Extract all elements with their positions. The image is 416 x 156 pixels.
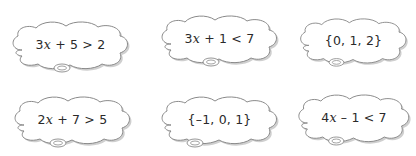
- set-label: {0, 1, 2}: [296, 33, 411, 48]
- inequality-label: 3x + 5 > 2: [8, 37, 133, 52]
- thought-cloud-5: {–1, 0, 1}: [157, 95, 282, 150]
- inequality-label: 3x + 1 < 7: [157, 31, 282, 46]
- thought-cloud-6: 4x – 1 < 7: [294, 93, 414, 148]
- thought-cloud-2: 3x + 1 < 7: [157, 14, 282, 69]
- thought-cloud-1: 3x + 5 > 2: [8, 20, 133, 75]
- inequality-label: 4x – 1 < 7: [294, 110, 414, 125]
- set-label: {–1, 0, 1}: [157, 112, 282, 127]
- thought-cloud-4: 2x + 7 > 5: [10, 95, 135, 150]
- inequality-label: 2x + 7 > 5: [10, 112, 135, 127]
- thought-cloud-3: {0, 1, 2}: [296, 17, 411, 69]
